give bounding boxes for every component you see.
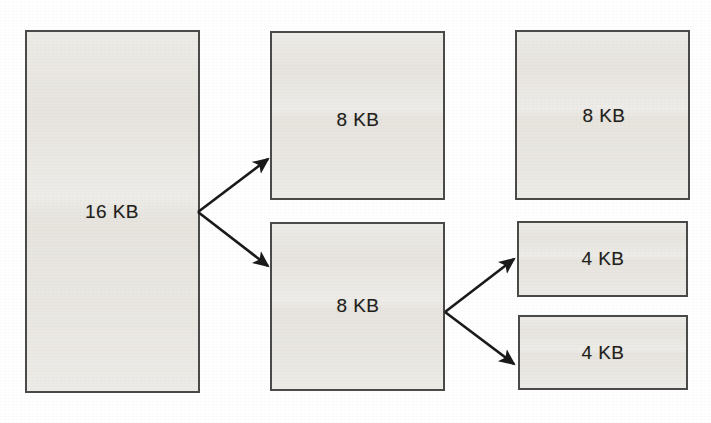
memory-split-diagram: 16 KB8 KB8 KB8 KB4 KB4 KB: [0, 0, 711, 423]
arrow-16kb-to-8kb-top: [198, 159, 268, 212]
arrow-16kb-to-8kb-bottom: [198, 212, 268, 266]
arrow-8kb-to-4kb-upper: [445, 259, 514, 312]
arrow-8kb-to-4kb-lower: [445, 312, 514, 364]
arrow-layer: [0, 0, 711, 423]
